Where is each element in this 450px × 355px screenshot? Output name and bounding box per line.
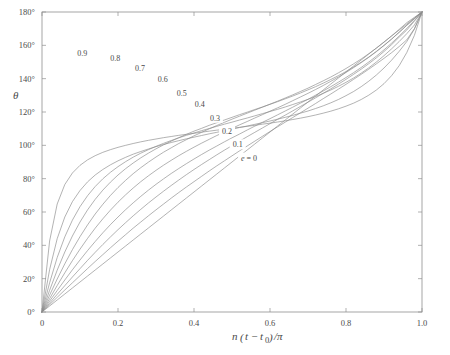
curve-label-text: 0.3 — [210, 114, 220, 123]
y-axis-title: θ — [13, 89, 19, 101]
y-tick-label: 180° — [19, 7, 35, 17]
x-axis-title-slash-pi: /π — [273, 330, 283, 342]
chart-background — [0, 0, 450, 355]
curve-label-e-0_9: 0.9 — [74, 48, 90, 58]
y-tick-label: 0° — [27, 307, 35, 317]
curve-label-e-0_8: 0.8 — [107, 53, 123, 63]
y-tick-label: 40° — [23, 240, 35, 250]
kepler-true-anomaly-chart: 00.20.40.60.81.0 0°20°40°60°80°100°120°1… — [0, 0, 450, 355]
x-axis-title-minus: − — [251, 330, 258, 342]
x-tick-label: 0.6 — [265, 318, 276, 328]
chart-svg: 00.20.40.60.81.0 0°20°40°60°80°100°120°1… — [0, 0, 450, 355]
curve-label-e-0_3: 0.3 — [207, 113, 223, 123]
curve-label-text: 0.6 — [158, 75, 168, 84]
curve-label-e-0_1: 0.1 — [230, 139, 246, 149]
y-tick-label: 140° — [19, 74, 35, 84]
x-axis-title-n: n — [232, 330, 238, 342]
curve-label-text: 0.7 — [135, 64, 145, 73]
y-tick-label: 20° — [23, 274, 35, 284]
curve-label-text: 0.1 — [233, 140, 243, 149]
curve-label-text: e = 0 — [241, 154, 257, 163]
y-tick-label: 100° — [19, 140, 35, 150]
y-tick-label: 120° — [19, 107, 35, 117]
curve-label-text: 0.8 — [110, 54, 120, 63]
x-axis-title-close-paren: ) — [268, 331, 273, 344]
y-tick-label: 80° — [23, 174, 35, 184]
y-tick-label: 160° — [19, 40, 35, 50]
curve-label-e-0_2: 0.2 — [219, 126, 235, 136]
x-tick-label: 1.0 — [417, 318, 428, 328]
curve-label-e-0: e = 0 — [238, 153, 260, 163]
y-tick-label: 60° — [23, 207, 35, 217]
curve-label-text: 0.5 — [177, 89, 187, 98]
curve-label-text: 0.2 — [222, 127, 232, 136]
x-tick-label: 0.4 — [189, 318, 200, 328]
curve-label-text: 0.9 — [77, 49, 87, 58]
curve-label-e-0_6: 0.6 — [155, 74, 171, 84]
curve-label-e-0_5: 0.5 — [174, 88, 190, 98]
curve-label-e-0_4: 0.4 — [192, 99, 208, 109]
curve-label-text: 0.4 — [195, 100, 205, 109]
x-tick-label: 0.2 — [113, 318, 124, 328]
x-tick-label: 0.8 — [341, 318, 352, 328]
x-tick-label: 0 — [40, 318, 44, 328]
curve-label-e-0_7: 0.7 — [132, 63, 148, 73]
